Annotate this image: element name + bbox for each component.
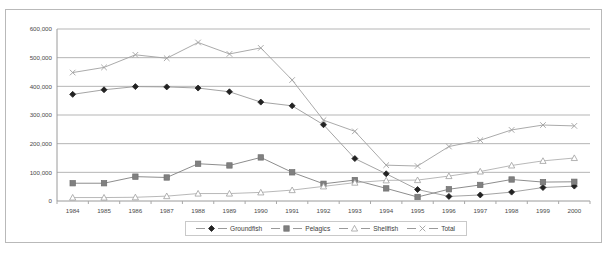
data-point-square — [446, 187, 451, 192]
data-point-diamond — [226, 89, 232, 95]
data-point-cross — [352, 129, 358, 135]
legend-label: Groundfish — [229, 225, 263, 232]
data-point-square — [384, 186, 389, 191]
legend-item-shellfish[interactable]: Shellfish — [339, 224, 399, 233]
data-point-square — [572, 179, 577, 184]
data-point-diamond — [132, 84, 138, 90]
data-point-square — [195, 161, 200, 166]
legend-line-left — [271, 228, 280, 229]
data-point-cross — [195, 40, 201, 46]
data-point-diamond — [70, 91, 76, 97]
data-point-triangle — [571, 155, 577, 161]
x-axis-label: 1996 — [442, 207, 456, 214]
legend-marker-diamond-icon — [207, 224, 216, 233]
data-point-square — [133, 174, 138, 179]
legend-item-total[interactable]: Total — [407, 224, 456, 233]
data-point-cross — [289, 77, 295, 83]
x-axis-label: 1989 — [223, 207, 237, 214]
y-axis-label: 600,000 — [30, 25, 53, 32]
legend-line-left — [196, 228, 205, 229]
series-line — [73, 158, 575, 198]
data-point-square — [70, 181, 75, 186]
x-axis-label: 1999 — [536, 207, 550, 214]
y-axis-label: 100,000 — [30, 169, 53, 176]
data-point-square — [284, 226, 289, 231]
legend-line-right — [361, 228, 370, 229]
x-axis-label: 1993 — [348, 207, 362, 214]
data-point-square — [289, 170, 294, 175]
x-axis-label: 1997 — [473, 207, 487, 214]
legend-item-pelagics[interactable]: Pelagics — [271, 224, 331, 233]
y-axis-label: 400,000 — [30, 83, 53, 90]
data-point-diamond — [446, 193, 452, 199]
x-axis-tick-labels: 1984198519861987198819891990199119921993… — [66, 207, 582, 214]
data-point-square — [258, 155, 263, 160]
legend-label: Shellfish — [372, 225, 399, 232]
legend-line-right — [218, 228, 227, 229]
x-axis-label: 1984 — [66, 207, 80, 214]
data-series-layer — [70, 40, 578, 200]
chart-legend: GroundfishPelagicsShellfishTotal — [185, 221, 467, 236]
data-point-cross — [420, 226, 426, 232]
y-axis-label: 0 — [49, 197, 53, 204]
series-line — [73, 42, 575, 166]
data-point-triangle — [352, 225, 358, 231]
x-axis-label: 1992 — [317, 207, 331, 214]
legend-line-left — [339, 228, 348, 229]
data-point-diamond — [209, 226, 215, 232]
data-point-diamond — [540, 185, 546, 191]
x-axis-label: 1991 — [285, 207, 299, 214]
data-point-diamond — [101, 87, 107, 93]
legend-line-right — [429, 228, 438, 229]
y-axis-label: 200,000 — [30, 140, 53, 147]
legend-label: Total — [440, 225, 456, 232]
y-axis-label: 300,000 — [30, 111, 53, 118]
legend-line-left — [407, 228, 416, 229]
y-axis-label: 500,000 — [30, 54, 53, 61]
legend-marker-triangle-icon — [350, 224, 359, 233]
series-line — [73, 157, 575, 197]
x-axis-label: 1986 — [128, 207, 142, 214]
data-point-diamond — [164, 84, 170, 90]
x-axis-label: 1994 — [379, 207, 393, 214]
series-line — [73, 87, 575, 197]
data-point-square — [478, 182, 483, 187]
data-point-diamond — [383, 171, 389, 177]
data-point-square — [540, 179, 545, 184]
data-point-square — [101, 181, 106, 186]
x-axis-label: 1988 — [191, 207, 205, 214]
x-axis-label: 1998 — [505, 207, 519, 214]
y-axis-tick-labels: 0100,000200,000300,000400,000500,000600,… — [30, 25, 53, 204]
legend-item-groundfish[interactable]: Groundfish — [196, 224, 263, 233]
line-chart-plot: 0100,000200,000300,000400,000500,000600,… — [6, 10, 601, 242]
data-point-square — [509, 177, 514, 182]
legend-line-right — [293, 228, 302, 229]
legend-label: Pelagics — [304, 225, 331, 232]
data-point-square — [227, 163, 232, 168]
x-axis-label: 1985 — [97, 207, 111, 214]
legend-marker-cross-icon — [418, 224, 427, 233]
data-point-square — [415, 194, 420, 199]
x-axis-label: 1987 — [160, 207, 174, 214]
data-point-diamond — [509, 189, 515, 195]
legend-marker-square-icon — [282, 224, 291, 233]
data-point-diamond — [415, 187, 421, 193]
data-point-square — [164, 175, 169, 180]
data-point-diamond — [477, 192, 483, 198]
x-axis-label: 2000 — [567, 207, 581, 214]
data-point-diamond — [258, 99, 264, 105]
x-axis-label: 1990 — [254, 207, 268, 214]
data-point-diamond — [289, 103, 295, 109]
chart-frame: 0100,000200,000300,000400,000500,000600,… — [5, 9, 602, 243]
series-total — [70, 40, 577, 169]
x-axis-label: 1995 — [411, 207, 425, 214]
